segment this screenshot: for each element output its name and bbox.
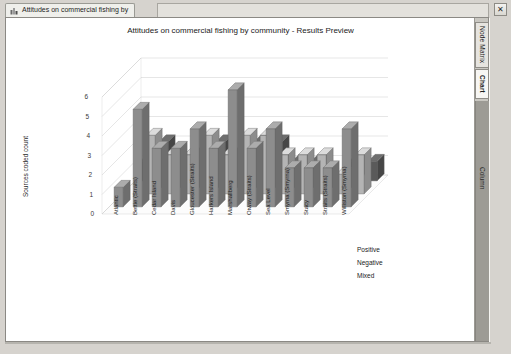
document-tab-label: Attitudes on commercial fishing by — [22, 6, 128, 13]
x-axis-tick-label: Straits (Straits) — [322, 175, 328, 215]
legend-item-label: Positive — [357, 246, 380, 253]
y-axis-tick: 5 — [75, 113, 89, 120]
x-axis-tick-label: Smyrna (Smyrna) — [284, 168, 290, 215]
x-axis-tick-label: Williston (Smyrna) — [341, 166, 347, 215]
close-glyph: ✕ — [497, 6, 504, 14]
chart-pane: Attitudes on commercial fishing by commu… — [5, 17, 489, 342]
x-axis-tick-label: Sea Level — [265, 188, 271, 215]
column-axis-label: Column — [475, 148, 489, 208]
results-preview-window: Attitudes on commercial fishing by ✕ Att… — [0, 0, 511, 354]
document-tab-strip: Attitudes on commercial fishing by — [5, 3, 489, 18]
y-axis-tick: 6 — [74, 93, 88, 100]
bar-chart-plot — [6, 18, 475, 341]
sidebar-item-node-matrix[interactable]: Node Matrix — [475, 22, 489, 68]
y-axis-tick: 1 — [79, 191, 93, 198]
x-axis-tick-label: Otway (Straits) — [246, 175, 252, 215]
sidebar-item-label: Node Matrix — [479, 26, 486, 63]
x-axis-tick-label: Marshallberg — [227, 180, 233, 215]
x-axis-tick-label: Stacy — [303, 200, 309, 215]
sidebar-item-label: Chart — [479, 75, 486, 93]
chart-icon — [10, 7, 19, 15]
chart-canvas: Attitudes on commercial fishing by commu… — [6, 18, 475, 341]
x-axis-tick-label: Atlantic — [113, 195, 119, 215]
x-axis-tick-label: Davis — [170, 200, 176, 215]
x-axis-tick-label: Harkers Island — [208, 176, 214, 215]
x-axis-tick-label: Gloucester (Straits) — [189, 163, 195, 215]
legend-item-label: Mixed — [357, 272, 374, 279]
x-axis-tick-label: Bettie (Straits) — [132, 177, 138, 215]
legend-item-label: Negative — [357, 259, 383, 266]
close-icon[interactable]: ✕ — [494, 3, 507, 16]
y-axis-tick: 0 — [80, 210, 94, 217]
tab-strip-filler — [157, 3, 489, 18]
x-axis-tick-label: Cedar Island — [151, 181, 157, 215]
document-tab[interactable]: Attitudes on commercial fishing by — [5, 3, 135, 18]
y-axis-tick: 3 — [77, 152, 91, 159]
y-axis-tick: 4 — [76, 132, 90, 139]
side-tab-rail: Node Matrix Chart Column — [474, 18, 488, 341]
rail-scrollbar[interactable] — [475, 101, 489, 341]
window-shadow — [5, 342, 491, 344]
sidebar-item-chart[interactable]: Chart — [475, 69, 489, 99]
y-axis-tick: 2 — [78, 171, 92, 178]
